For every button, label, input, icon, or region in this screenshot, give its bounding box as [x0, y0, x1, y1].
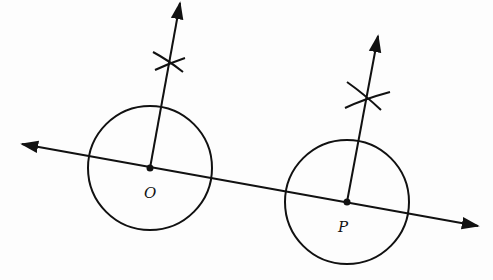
point-p	[344, 199, 351, 206]
diagram-svg: O P	[0, 0, 493, 280]
construction-diagram: O P	[0, 0, 493, 280]
point-o	[147, 165, 154, 172]
perpendicular-ray-p	[347, 36, 378, 202]
perpendicular-ray-o	[150, 3, 180, 168]
label-o: O	[144, 184, 156, 202]
label-p: P	[337, 218, 349, 236]
